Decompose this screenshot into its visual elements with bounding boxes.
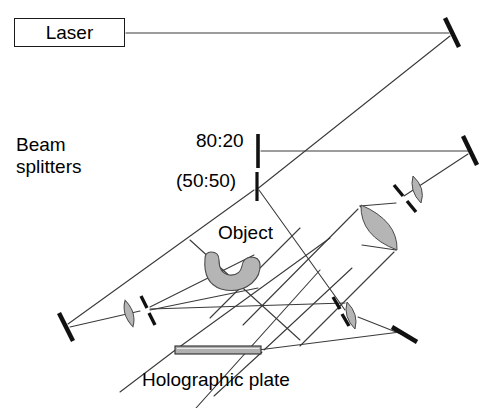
mirror-bottom-right: [392, 327, 417, 342]
beam-splitters-label-line2: splitters: [16, 156, 81, 178]
beam-bottom-right-lens-to-mirror: [358, 317, 401, 334]
holographic-plate-body: [175, 346, 261, 354]
beam-5050-cross-to-bottom-right: [259, 190, 345, 310]
beam-splitters-label-line1: Beam: [16, 134, 81, 156]
object-label: Object: [218, 222, 273, 244]
laser-source-box: Laser: [14, 18, 125, 47]
holography-setup-diagram: Laser Beam splitters 80:20 (50:50) Objec…: [0, 0, 494, 408]
object-sample: [205, 252, 260, 291]
lens-large-center-right: [361, 205, 397, 250]
lens-small-upper-right: [412, 176, 422, 203]
beam-splitter-upper-right-upper: [394, 185, 403, 196]
beam-splitters-label: Beam splitters: [16, 134, 81, 178]
beam-small-lens-to-large-lens: [360, 203, 396, 206]
beam-splitter-bottom-left-lower: [149, 313, 155, 325]
optics-beam-canvas: [0, 0, 494, 408]
beam-bottom-right-mirror-to-plate: [258, 332, 400, 350]
object-crescent-shape: [205, 252, 260, 291]
ratio-80-20-label: 80:20: [196, 130, 244, 152]
beam-5050-to-bottom-left-mirror: [68, 190, 254, 324]
beam-top-mirror-to-splitters: [256, 36, 450, 190]
holographic-plate: [175, 346, 261, 354]
laser-label: Laser: [46, 22, 94, 44]
beam-paths: [68, 33, 468, 408]
beam-splitter-upper-right-lower: [407, 201, 416, 212]
lens-bottom-left: [124, 300, 135, 328]
ratio-50-50-label: (50:50): [176, 170, 236, 192]
beam-splitter-bottom-left-upper: [141, 296, 147, 308]
holographic-plate-label: Holographic plate: [142, 369, 290, 391]
